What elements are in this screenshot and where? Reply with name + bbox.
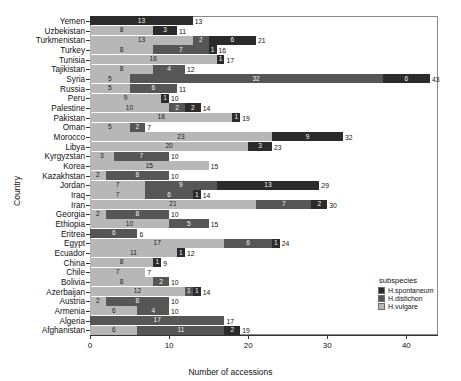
bar-segment[interactable]: 2: [90, 171, 106, 180]
bar-segment[interactable]: 17: [90, 239, 224, 248]
bar-segment[interactable]: 8: [90, 45, 153, 54]
stacked-bar[interactable]: 87116: [90, 45, 217, 54]
bar-segment[interactable]: 9: [90, 94, 161, 103]
legend-item[interactable]: H.distichon: [378, 295, 456, 302]
bar-segment[interactable]: 1: [161, 94, 169, 103]
bar-segment[interactable]: 13: [90, 36, 193, 45]
stacked-bar[interactable]: 23932: [90, 132, 343, 141]
bar-segment[interactable]: 5: [90, 84, 130, 93]
bar-segment[interactable]: 5: [90, 74, 130, 83]
bar-segment[interactable]: 13: [217, 181, 320, 190]
bar-segment[interactable]: 6: [90, 229, 137, 238]
stacked-bar[interactable]: 1313: [90, 16, 193, 25]
bar-segment[interactable]: 6: [90, 306, 137, 315]
bar-segment[interactable]: 10: [90, 219, 169, 228]
stacked-bar[interactable]: 8311: [90, 26, 177, 35]
bar-segment[interactable]: 6: [130, 84, 177, 93]
bar-segment[interactable]: 8: [106, 210, 169, 219]
stacked-bar[interactable]: 791329: [90, 181, 319, 190]
stacked-bar[interactable]: 2810: [90, 210, 169, 219]
bar-segment[interactable]: 3: [248, 142, 272, 151]
bar-segment[interactable]: 6: [383, 74, 430, 83]
bar-segment[interactable]: 1: [153, 258, 161, 267]
stacked-bar[interactable]: 217230: [90, 200, 327, 209]
stacked-bar[interactable]: 2810: [90, 171, 169, 180]
bar-segment[interactable]: 2: [130, 123, 146, 132]
bar-segment[interactable]: 7: [114, 152, 169, 161]
bar-segment[interactable]: 1: [193, 190, 201, 199]
bar-segment[interactable]: 2: [169, 103, 185, 112]
bar-segment[interactable]: 8: [90, 65, 153, 74]
bar-segment[interactable]: 8: [90, 26, 153, 35]
bar-segment[interactable]: 9: [272, 132, 343, 141]
stacked-bar[interactable]: 10515: [90, 219, 209, 228]
stacked-bar[interactable]: 77: [90, 268, 145, 277]
bar-segment[interactable]: 1: [209, 45, 217, 54]
bar-segment[interactable]: 3: [90, 152, 114, 161]
bar-segment[interactable]: 1: [177, 248, 185, 257]
stacked-bar[interactable]: 16117: [90, 55, 224, 64]
bar-segment[interactable]: 2: [90, 297, 106, 306]
bar-segment[interactable]: 7: [90, 181, 145, 190]
bar-segment[interactable]: 8: [106, 297, 169, 306]
bar-segment[interactable]: 7: [153, 45, 208, 54]
bar-segment[interactable]: 21: [90, 200, 256, 209]
bar-segment[interactable]: 23: [90, 132, 272, 141]
bar-segment[interactable]: 10: [90, 103, 169, 112]
stacked-bar[interactable]: 20323: [90, 142, 272, 151]
bar-segment[interactable]: 13: [90, 16, 193, 25]
bar-segment[interactable]: 7: [90, 190, 145, 199]
stacked-bar[interactable]: 819: [90, 258, 161, 267]
stacked-bar[interactable]: 9110: [90, 94, 169, 103]
bar-segment[interactable]: 5: [169, 219, 209, 228]
bar-segment[interactable]: 3: [153, 26, 177, 35]
bar-segment[interactable]: 15: [90, 161, 209, 170]
stacked-bar[interactable]: 1717: [90, 316, 224, 325]
bar-segment[interactable]: 8: [106, 171, 169, 180]
bar-segment[interactable]: 6: [90, 326, 137, 335]
stacked-bar[interactable]: 132621: [90, 36, 256, 45]
stacked-bar[interactable]: 2810: [90, 297, 169, 306]
bar-segment[interactable]: 16: [90, 55, 217, 64]
bar-segment[interactable]: 1: [232, 113, 240, 122]
stacked-bar[interactable]: 5611: [90, 84, 177, 93]
bar-segment[interactable]: 2: [90, 210, 106, 219]
bar-segment[interactable]: 11: [90, 248, 177, 257]
bar-segment[interactable]: 2: [311, 200, 327, 209]
bar-segment[interactable]: 7: [90, 268, 145, 277]
stacked-bar[interactable]: 102214: [90, 103, 201, 112]
stacked-bar[interactable]: 121114: [90, 287, 201, 296]
bar-segment[interactable]: 4: [137, 306, 169, 315]
bar-segment[interactable]: 2: [185, 103, 201, 112]
stacked-bar[interactable]: 611219: [90, 326, 240, 335]
bar-segment[interactable]: 1: [193, 287, 201, 296]
stacked-bar[interactable]: 3710: [90, 152, 169, 161]
stacked-bar[interactable]: 18119: [90, 113, 240, 122]
bar-segment[interactable]: 2: [153, 277, 169, 286]
bar-segment[interactable]: 32: [130, 74, 383, 83]
bar-segment[interactable]: 20: [90, 142, 248, 151]
bar-segment[interactable]: 17: [90, 316, 224, 325]
stacked-bar[interactable]: 1515: [90, 161, 209, 170]
bar-segment[interactable]: 1: [272, 239, 280, 248]
bar-segment[interactable]: 6: [145, 190, 192, 199]
bar-segment[interactable]: 1: [185, 287, 193, 296]
stacked-bar[interactable]: 66: [90, 229, 137, 238]
bar-segment[interactable]: 6: [224, 239, 271, 248]
bar-segment[interactable]: 18: [90, 113, 232, 122]
bar-segment[interactable]: 6: [209, 36, 256, 45]
stacked-bar[interactable]: 11112: [90, 248, 185, 257]
stacked-bar[interactable]: 8210: [90, 277, 169, 286]
bar-segment[interactable]: 2: [193, 36, 209, 45]
bar-segment[interactable]: 12: [90, 287, 185, 296]
bar-segment[interactable]: 2: [224, 326, 240, 335]
legend-item[interactable]: H.vulgare: [378, 303, 456, 310]
stacked-bar[interactable]: 6410: [90, 306, 169, 315]
bar-segment[interactable]: 8: [90, 277, 153, 286]
legend-item[interactable]: H.spontaneum: [378, 287, 456, 294]
bar-segment[interactable]: 1: [217, 55, 225, 64]
stacked-bar[interactable]: 527: [90, 123, 145, 132]
bar-segment[interactable]: 9: [145, 181, 216, 190]
stacked-bar[interactable]: 76114: [90, 190, 201, 199]
bar-segment[interactable]: 4: [153, 65, 185, 74]
